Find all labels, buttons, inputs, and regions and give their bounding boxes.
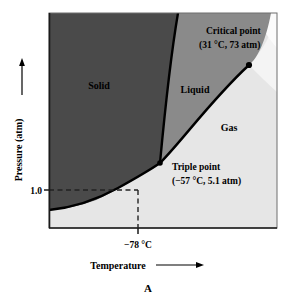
phase-diagram-canvas: Solid Liquid Gas Critical point (31 °C, …	[0, 0, 295, 298]
figure-caption: A	[144, 282, 152, 294]
critical-point-title: Critical point	[206, 26, 261, 36]
critical-point-value: (31 °C, 73 atm)	[199, 40, 260, 51]
y-axis-tick-label: 1.0	[30, 186, 42, 196]
x-axis-title: Temperature	[90, 260, 146, 271]
triple-point-value: (−57 °C, 5.1 atm)	[172, 176, 241, 187]
gas-region-label: Gas	[221, 122, 238, 133]
y-axis-title: Pressure (atm)	[13, 119, 25, 182]
y-axis-title-group: Pressure (atm)	[13, 119, 25, 182]
critical-point-marker	[246, 62, 252, 68]
triple-point-marker	[157, 160, 163, 166]
solid-region-label: Solid	[88, 80, 110, 91]
triple-point-title: Triple point	[172, 162, 221, 172]
phase-diagram-figure: Solid Liquid Gas Critical point (31 °C, …	[0, 0, 295, 298]
liquid-region-label: Liquid	[181, 84, 210, 95]
x-axis-tick-label: −78 °C	[124, 240, 152, 250]
